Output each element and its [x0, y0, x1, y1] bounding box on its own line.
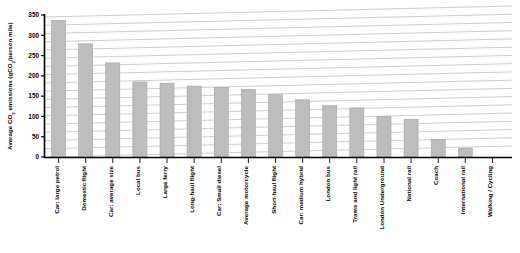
chart-background — [0, 0, 520, 253]
y-tick-label: 0 — [35, 153, 39, 160]
x-category-label: Long-haul flight — [188, 166, 195, 213]
bar — [458, 148, 472, 157]
bar — [106, 63, 120, 157]
bar — [214, 87, 228, 157]
x-category-label: Short-haul flight — [270, 166, 277, 214]
x-category-label: International rail — [459, 166, 466, 214]
bar — [52, 20, 66, 157]
bar — [268, 95, 282, 157]
y-tick-label: 300 — [28, 32, 39, 39]
y-tick-label: 50 — [32, 133, 40, 140]
bar — [404, 119, 418, 157]
x-category-label: Average motorcycle — [242, 165, 249, 224]
x-category-label: Car: medium hybrid — [297, 166, 304, 225]
bar — [133, 82, 147, 157]
y-tick-label: 150 — [28, 92, 39, 99]
x-category-label: London bus — [324, 165, 331, 201]
x-category-label: Trams and light rail — [351, 166, 358, 223]
bar — [377, 116, 391, 157]
x-category-label: Car: average size — [107, 165, 114, 216]
x-category-label: National rail — [405, 166, 412, 202]
x-category-label: Walking / Cycling — [486, 166, 493, 217]
y-tick-label: 350 — [28, 11, 39, 18]
bar — [160, 83, 174, 157]
chart-container: 050100150200250300350 Car: large petrolD… — [0, 0, 520, 253]
bar — [79, 44, 93, 157]
x-category-label: Car: Small diesel — [215, 166, 222, 216]
x-category-label: Domestic flight — [80, 166, 87, 211]
x-category-label: London Underground — [378, 166, 385, 230]
y-tick-label: 250 — [28, 52, 39, 59]
bar — [350, 108, 364, 157]
bar — [187, 86, 201, 157]
bar — [431, 140, 445, 157]
y-tick-label: 100 — [28, 113, 39, 120]
x-category-label: Local bus — [134, 165, 141, 194]
x-category-label: Large ferry — [161, 165, 168, 198]
emissions-bar-chart: 050100150200250300350 Car: large petrolD… — [0, 0, 520, 253]
bar — [241, 89, 255, 157]
x-category-label: Car: large petrol — [53, 166, 60, 214]
y-tick-label: 200 — [28, 72, 39, 79]
bar — [323, 105, 337, 157]
x-category-label: Coach — [432, 166, 439, 185]
bar — [296, 100, 310, 157]
